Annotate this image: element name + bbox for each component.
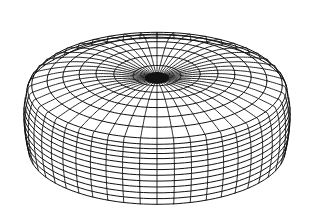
meridian-line [28, 78, 147, 164]
meridian-line [165, 80, 263, 184]
center-pole [145, 72, 169, 84]
wireframe-disc-figure [0, 0, 316, 219]
wireframe-mesh [24, 32, 290, 204]
meridian-line [166, 78, 285, 164]
meridian-line [24, 74, 148, 150]
meridian-line [167, 74, 291, 150]
meridian-line [51, 80, 149, 184]
